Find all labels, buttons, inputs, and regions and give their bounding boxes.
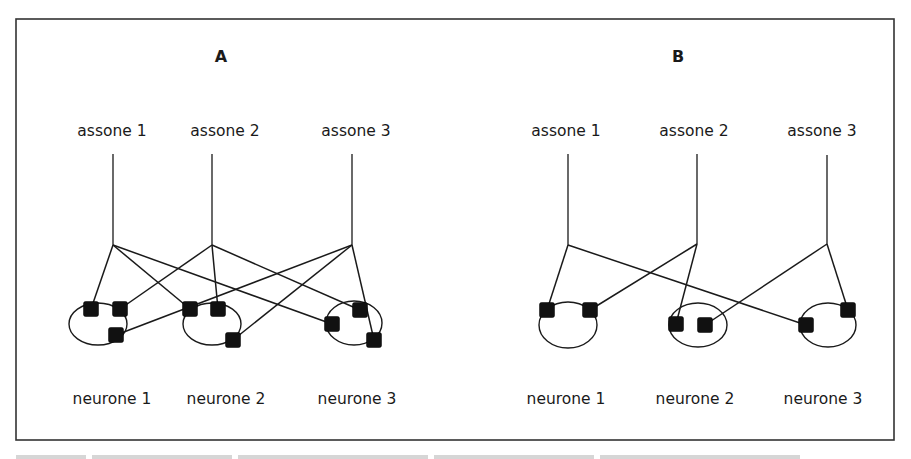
figure-frame: [16, 19, 894, 440]
synapse-terminal: [353, 303, 368, 318]
synapse-terminal: [211, 302, 226, 317]
panel-a: A assone 1assone 2assone 3 neurone 1neur…: [69, 47, 396, 408]
synapse-terminal: [325, 317, 340, 332]
caption-cut-off: [16, 455, 800, 459]
panel-b-axon-labels: assone 1assone 2assone 3: [531, 122, 856, 140]
synapse-terminal: [698, 318, 713, 333]
axon-label: assone 1: [77, 122, 146, 140]
axon-branch: [91, 245, 113, 309]
panel-a-axons: [113, 154, 352, 245]
axon-branch: [827, 244, 848, 310]
neuron-label: neurone 3: [784, 390, 863, 408]
synapse-terminal: [841, 303, 856, 318]
neuron-label: neurone 2: [187, 390, 266, 408]
synapse-terminal: [109, 328, 124, 343]
axon-branch: [352, 245, 374, 340]
neural-connectivity-diagram: A assone 1assone 2assone 3 neurone 1neur…: [0, 0, 911, 459]
panel-b-neuron-labels: neurone 1neurone 2neurone 3: [527, 390, 863, 408]
synapse-terminal: [540, 303, 555, 318]
panel-a-neuron-labels: neurone 1neurone 2neurone 3: [73, 390, 397, 408]
synapse-terminal: [669, 317, 684, 332]
axon-label: assone 1: [531, 122, 600, 140]
axon-label: assone 3: [787, 122, 856, 140]
panel-a-label: A: [215, 47, 228, 66]
axon-label: assone 2: [190, 122, 259, 140]
panel-b-neurons: [539, 302, 856, 348]
synapse-terminal: [367, 333, 382, 348]
axon-branch: [590, 244, 697, 310]
panel-b: B assone 1assone 2assone 3 neurone 1neur…: [527, 47, 863, 408]
neuron-2: [669, 303, 728, 347]
synapse-terminal: [226, 333, 241, 348]
axon-branch: [705, 244, 827, 325]
axon-branch: [212, 245, 360, 310]
synapse-terminal: [799, 318, 814, 333]
panel-a-axon-labels: assone 1assone 2assone 3: [77, 122, 390, 140]
neuron-2: [183, 302, 242, 348]
panel-b-label: B: [672, 47, 684, 66]
neuron-3: [325, 301, 383, 348]
axon-branch: [547, 245, 568, 310]
panel-a-neurons: [69, 301, 382, 348]
axon-branch: [113, 245, 190, 309]
neuron-label: neurone 2: [656, 390, 735, 408]
neuron-label: neurone 1: [73, 390, 152, 408]
synapse-terminal: [113, 302, 128, 317]
neuron-3: [799, 303, 857, 348]
axon-label: assone 3: [321, 122, 390, 140]
synapse-terminal: [583, 303, 598, 318]
axon-branch: [120, 245, 212, 309]
neuron-1: [539, 302, 598, 348]
axon-branch: [212, 245, 218, 309]
panel-b-axons: [568, 154, 827, 245]
neuron-label: neurone 3: [318, 390, 397, 408]
synapse-terminal: [183, 302, 198, 317]
neuron-label: neurone 1: [527, 390, 606, 408]
synapse-terminal: [84, 302, 99, 317]
axon-branch: [676, 244, 697, 324]
axon-label: assone 2: [659, 122, 728, 140]
neuron-1: [69, 302, 128, 346]
